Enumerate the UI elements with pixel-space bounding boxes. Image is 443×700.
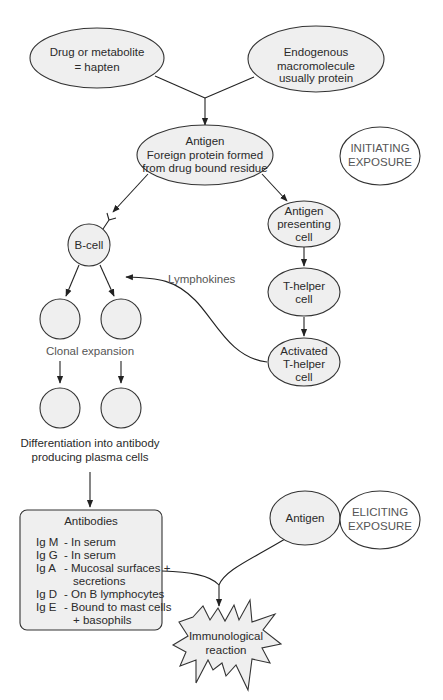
node-antigen-second: Antigen bbox=[270, 491, 340, 545]
node-antigen-main: Antigen Foreign protein formed from drug… bbox=[137, 125, 273, 185]
differentiation-line-1: Differentiation into antibody bbox=[20, 437, 159, 449]
edge-lymphokines bbox=[126, 277, 267, 362]
apc-line-1: Antigen bbox=[284, 205, 323, 217]
edge-macromolecule-to-junction bbox=[205, 77, 254, 98]
plasma-cells: Differentiation into antibody producing … bbox=[20, 388, 159, 463]
ig-a-code: Ig A bbox=[36, 562, 56, 574]
initiating-line-1: INITIATING bbox=[350, 142, 409, 154]
differentiation-line-2: producing plasma cells bbox=[32, 451, 149, 463]
edge-bcell-to-clone-1 bbox=[66, 265, 79, 296]
activated-line-2: T-helper bbox=[283, 358, 325, 370]
macromolecule-line-3: usually protein bbox=[279, 72, 353, 84]
edge-hapten-to-junction bbox=[155, 76, 205, 98]
plasma-cell-1 bbox=[40, 388, 80, 428]
node-macromolecule: Endogenous macromolecule usually protein bbox=[248, 26, 384, 92]
antigen-main-line-1: Antigen bbox=[185, 135, 224, 147]
node-antigen-presenting-cell: Antigen presenting cell bbox=[268, 201, 340, 247]
hapten-line-2: = hapten bbox=[74, 61, 119, 73]
macromolecule-line-2: macromolecule bbox=[277, 60, 355, 72]
antigen-second-label: Antigen bbox=[285, 512, 324, 524]
node-immunological-reaction: Immunological reaction bbox=[173, 600, 281, 690]
macromolecule-line-1: Endogenous bbox=[284, 46, 349, 58]
node-initiating-exposure: INITIATING EXPOSURE bbox=[340, 127, 420, 185]
plasma-cell-2 bbox=[101, 388, 141, 428]
clonal-expansion-label: Clonal expansion bbox=[46, 345, 134, 357]
apc-line-3: cell bbox=[295, 231, 312, 243]
eliciting-line-1: ELICITING bbox=[352, 506, 408, 518]
clone-cell-1 bbox=[40, 299, 80, 339]
node-t-helper: T-helper cell bbox=[268, 268, 340, 316]
node-activated-t-helper: Activated T-helper cell bbox=[268, 338, 340, 386]
edge-antigen-to-apc bbox=[262, 174, 287, 201]
apc-line-2: presenting bbox=[277, 218, 331, 230]
ig-g-desc: - In serum bbox=[64, 549, 116, 561]
edge-antibodies-to-junction bbox=[162, 571, 219, 585]
edge-antigen-to-bcell bbox=[113, 174, 148, 212]
t-helper-line-1: T-helper bbox=[283, 280, 325, 292]
ig-g-code: Ig G bbox=[36, 549, 58, 561]
clone-cell-2 bbox=[101, 299, 141, 339]
node-b-cell: B-cell bbox=[68, 213, 116, 266]
antigen-main-line-2: Foreign protein formed bbox=[147, 149, 263, 161]
immunological-reaction-diagram: Drug or metabolite = hapten Endogenous m… bbox=[0, 0, 443, 700]
initiating-line-2: EXPOSURE bbox=[348, 156, 412, 168]
hapten-line-1: Drug or metabolite bbox=[50, 46, 145, 58]
edge-antigen2-to-junction bbox=[219, 539, 285, 585]
eliciting-line-2: EXPOSURE bbox=[348, 520, 412, 532]
ig-m-code: Ig M bbox=[36, 536, 58, 548]
ig-e-desc-1: - Bound to mast cells bbox=[64, 601, 172, 613]
ig-e-desc-2: + basophils bbox=[73, 614, 132, 626]
lymphokines-label: Lymphokines bbox=[168, 273, 236, 285]
ig-m-desc: - In serum bbox=[64, 536, 116, 548]
clonal-cells: Clonal expansion bbox=[40, 299, 141, 357]
t-helper-line-2: cell bbox=[295, 293, 312, 305]
ig-d-desc: - On B lymphocytes bbox=[64, 588, 165, 600]
ig-a-desc-2: secretions bbox=[73, 575, 126, 587]
node-eliciting-exposure: ELICITING EXPOSURE bbox=[340, 491, 420, 549]
node-antibodies: Antibodies Ig M - In serum Ig G - In ser… bbox=[20, 510, 172, 630]
ig-e-code: Ig E bbox=[36, 601, 57, 613]
node-hapten: Drug or metabolite = hapten bbox=[30, 28, 164, 88]
edge-bcell-to-clone-2 bbox=[100, 265, 114, 296]
b-cell-label: B-cell bbox=[75, 239, 104, 251]
activated-line-1: Activated bbox=[280, 345, 327, 357]
activated-line-3: cell bbox=[295, 371, 312, 383]
b-cell-receptor-icon bbox=[103, 213, 116, 229]
ig-d-code: Ig D bbox=[36, 588, 57, 600]
reaction-line-1: Immunological bbox=[189, 630, 263, 642]
antibodies-title: Antibodies bbox=[64, 515, 118, 527]
ig-a-desc-1: - Mucosal surfaces + bbox=[64, 562, 171, 574]
reaction-line-2: reaction bbox=[206, 644, 247, 656]
antigen-main-line-3: from drug bound residue bbox=[142, 162, 267, 174]
